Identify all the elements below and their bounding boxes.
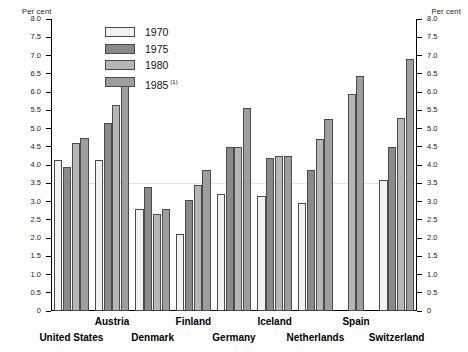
- bar-finland-1985: [202, 170, 210, 311]
- category-label-austria: Austria: [95, 316, 129, 328]
- bar-switzerland-1980: [397, 118, 405, 311]
- tick-label-l-4-0: 4.0: [31, 161, 41, 169]
- bar-germany-1980: [234, 147, 242, 311]
- legend-swatch-1980: [105, 60, 135, 70]
- tick-r-6-0: [417, 92, 422, 93]
- bar-germany-1985: [243, 108, 251, 311]
- tick-l-8-0: [46, 19, 51, 20]
- bar-spain-1980: [348, 94, 356, 311]
- legend-footnote-marker: (1): [170, 79, 177, 85]
- tick-r-3-5: [417, 183, 422, 184]
- bar-iceland-1970: [257, 196, 265, 311]
- bar-united-states-1970: [54, 160, 62, 311]
- tick-l-5-0: [46, 128, 51, 129]
- category-label-united-states: United States: [39, 332, 103, 344]
- tick-l-6-0: [46, 92, 51, 93]
- bar-spain-1985: [356, 76, 364, 311]
- bar-united-states-1975: [63, 167, 71, 311]
- tick-r-5-0: [417, 128, 422, 129]
- tick-label-l-3-0: 3.0: [31, 198, 41, 206]
- bar-united-states-1980: [72, 143, 80, 311]
- tick-label-r-5-5: 5.5: [427, 106, 437, 114]
- tick-r-2-5: [417, 219, 422, 220]
- bar-iceland-1985: [284, 156, 292, 311]
- tick-r-4-0: [417, 165, 422, 166]
- tick-l-0-5: [46, 292, 51, 293]
- tick-label-r-2-5: 2.5: [427, 216, 437, 224]
- tick-l-2-5: [46, 219, 51, 220]
- tick-label-r-1-5: 1.5: [427, 252, 437, 260]
- bar-switzerland-1985: [406, 59, 414, 311]
- tick-label-l-8-0: 8.0: [31, 15, 41, 23]
- tick-r-1-0: [417, 274, 422, 275]
- legend-label-1970: 1970: [145, 26, 168, 39]
- tick-label-r-1-0: 1.0: [427, 271, 437, 279]
- y-axis-left: [51, 19, 52, 311]
- tick-r-7-5: [417, 37, 422, 38]
- tick-r-4-5: [417, 146, 422, 147]
- tick-l-3-5: [46, 183, 51, 184]
- tick-label-l-6-0: 6.0: [31, 88, 41, 96]
- legend-swatch-1975: [105, 44, 135, 54]
- bar-denmark-1980: [153, 214, 161, 311]
- bar-switzerland-1970: [379, 180, 387, 311]
- bar-denmark-1985: [162, 209, 170, 311]
- tick-l-3-0: [46, 201, 51, 202]
- tick-label-l-7-5: 7.5: [31, 33, 41, 41]
- tick-label-l-1-5: 1.5: [31, 252, 41, 260]
- tick-label-l-7-0: 7.0: [31, 52, 41, 60]
- tick-label-l-4-5: 4.5: [31, 143, 41, 151]
- bar-denmark-1975: [144, 187, 152, 311]
- bar-finland-1980: [194, 185, 202, 311]
- bar-chart: Per cent Per cent 8.08.07.57.57.07.06.56…: [0, 0, 468, 352]
- tick-r-8-0: [417, 19, 422, 20]
- tick-label-r-4-5: 4.5: [427, 143, 437, 151]
- bar-iceland-1980: [275, 156, 283, 311]
- bar-germany-1970: [217, 194, 225, 311]
- tick-r-6-5: [417, 73, 422, 74]
- tick-l-2-0: [46, 238, 51, 239]
- tick-label-l-6-5: 6.5: [31, 70, 41, 78]
- tick-r-3-0: [417, 201, 422, 202]
- bar-austria-1970: [95, 160, 103, 311]
- bar-finland-1970: [176, 234, 184, 311]
- category-label-germany: Germany: [212, 332, 255, 344]
- legend-swatch-1985: [105, 77, 135, 87]
- bar-netherlands-1980: [316, 139, 324, 311]
- tick-label-r-0-5: 0.5: [427, 289, 437, 297]
- tick-label-r-2-0: 2.0: [427, 234, 437, 242]
- bar-united-states-1985: [80, 138, 88, 311]
- tick-r-5-5: [417, 110, 422, 111]
- tick-label-l-3-5: 3.5: [31, 179, 41, 187]
- tick-l-7-0: [46, 55, 51, 56]
- tick-label-l-5-5: 5.5: [31, 106, 41, 114]
- tick-label-l-2-0: 2.0: [31, 234, 41, 242]
- tick-r-1-5: [417, 256, 422, 257]
- tick-l-6-5: [46, 73, 51, 74]
- tick-label-l-5-0: 5.0: [31, 125, 41, 133]
- tick-label-r-3-5: 3.5: [427, 179, 437, 187]
- tick-label-l-0: 0: [37, 307, 41, 315]
- tick-label-r-7-5: 7.5: [427, 33, 437, 41]
- tick-label-r-8-0: 8.0: [427, 15, 437, 23]
- tick-label-r-0: 0: [427, 307, 431, 315]
- tick-label-r-7-0: 7.0: [427, 52, 437, 60]
- tick-label-r-3-0: 3.0: [427, 198, 437, 206]
- bar-germany-1975: [226, 147, 234, 311]
- tick-l-1-0: [46, 274, 51, 275]
- tick-l-1-5: [46, 256, 51, 257]
- bar-finland-1975: [185, 200, 193, 311]
- category-label-denmark: Denmark: [131, 332, 174, 344]
- tick-l-5-5: [46, 110, 51, 111]
- legend-swatch-1970: [105, 27, 135, 37]
- tick-label-l-1-0: 1.0: [31, 271, 41, 279]
- bar-netherlands-1975: [307, 170, 315, 311]
- bar-netherlands-1985: [324, 119, 332, 311]
- category-label-finland: Finland: [176, 316, 212, 328]
- tick-label-l-0-5: 0.5: [31, 289, 41, 297]
- bar-austria-1985: [121, 85, 129, 311]
- bar-netherlands-1970: [298, 203, 306, 311]
- tick-l-4-5: [46, 146, 51, 147]
- tick-label-r-5-0: 5.0: [427, 125, 437, 133]
- tick-r-2-0: [417, 238, 422, 239]
